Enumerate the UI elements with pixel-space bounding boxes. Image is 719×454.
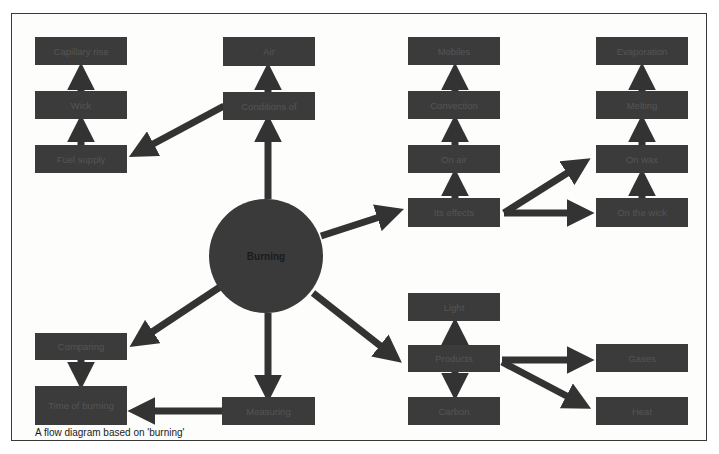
node-label: Measuring bbox=[246, 406, 290, 417]
node-air: Air bbox=[223, 37, 315, 66]
node-label: Mobiles bbox=[438, 46, 471, 57]
node-label: Gases bbox=[628, 353, 655, 364]
node-gases: Gases bbox=[596, 344, 688, 372]
node-label: Wick bbox=[71, 100, 92, 111]
hub-label: Burning bbox=[247, 251, 285, 262]
node-label: On the wick bbox=[617, 207, 667, 218]
node-label: Carbon bbox=[438, 406, 469, 417]
node-label: Melting bbox=[627, 100, 658, 111]
node-comparing: Comparing bbox=[35, 333, 127, 360]
node-label: Heat bbox=[632, 406, 652, 417]
node-heat: Heat bbox=[596, 397, 688, 425]
node-label: On air bbox=[441, 154, 467, 165]
node-label: Capillary rise bbox=[54, 46, 109, 57]
node-products: Products bbox=[408, 345, 500, 372]
node-label: Products bbox=[435, 353, 473, 364]
node-melting: Melting bbox=[596, 91, 688, 119]
node-its-effects: Its effects bbox=[408, 198, 500, 227]
node-label: On wax bbox=[626, 154, 658, 165]
node-light: Light bbox=[408, 293, 500, 321]
node-carbon: Carbon bbox=[408, 397, 500, 425]
node-label: Time of burning bbox=[48, 400, 114, 411]
figure-caption: A flow diagram based on 'burning' bbox=[35, 427, 184, 438]
node-fuel-supply: Fuel supply bbox=[35, 145, 127, 173]
node-label: Comparing bbox=[58, 341, 104, 352]
node-label: Convection bbox=[430, 100, 478, 111]
node-conditions-of: Conditions of bbox=[223, 92, 315, 120]
node-mobiles: Mobiles bbox=[408, 37, 500, 65]
node-label: Air bbox=[263, 46, 275, 57]
node-measuring: Measuring bbox=[222, 397, 315, 425]
node-label: Evaporation bbox=[617, 46, 668, 57]
node-capillary-rise: Capillary rise bbox=[35, 37, 127, 65]
node-convection: Convection bbox=[408, 91, 500, 119]
node-label: Conditions of bbox=[241, 101, 296, 112]
node-time-of-burning: Time of burning bbox=[35, 386, 127, 425]
hub-burning: Burning bbox=[209, 199, 323, 313]
node-label: Light bbox=[444, 302, 465, 313]
node-on-air: On air bbox=[408, 145, 500, 173]
node-wick: Wick bbox=[35, 91, 127, 119]
node-on-wax: On wax bbox=[596, 145, 688, 173]
node-label: Fuel supply bbox=[57, 154, 106, 165]
node-label: Its effects bbox=[434, 207, 474, 218]
node-on-the-wick: On the wick bbox=[596, 198, 688, 227]
node-evaporation: Evaporation bbox=[596, 37, 688, 65]
